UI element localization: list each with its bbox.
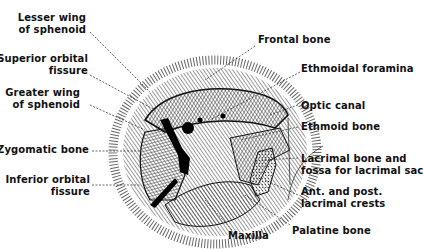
label-lacrimal-crests: Ant. and post. lacrimal crests	[301, 186, 385, 210]
label-line: Ethmoid bone	[301, 121, 380, 133]
label-zygomatic-bone: Zygomatic bone	[0, 144, 89, 156]
label-line: of sphenoid	[18, 24, 86, 36]
label-line: Greater wing	[5, 87, 80, 99]
label-line: Maxilla	[228, 230, 269, 242]
label-line: Inferior orbital	[5, 174, 90, 186]
label-line: Ant. and post.	[301, 186, 385, 198]
label-line: Palatine bone	[292, 225, 371, 237]
label-line: Ethmoidal foramina	[301, 63, 414, 75]
label-lacrimal-bone: Lacrimal bone and fossa for lacrimal sac	[301, 153, 423, 177]
ethmoidal-foramina-shape	[198, 118, 203, 123]
label-line: Zygomatic bone	[0, 144, 89, 156]
label-line: Optic canal	[301, 100, 365, 112]
label-ethmoidal-foramina: Ethmoidal foramina	[301, 63, 414, 75]
label-ethmoid-bone: Ethmoid bone	[301, 121, 380, 133]
label-line: Lesser wing	[18, 12, 86, 24]
label-greater-wing-of-sphenoid: Greater wing of sphenoid	[5, 87, 80, 111]
label-palatine-bone: Palatine bone	[292, 225, 371, 237]
label-inferior-orbital-fissure: Inferior orbital fissure	[5, 174, 90, 198]
label-lesser-wing-of-sphenoid: Lesser wing of sphenoid	[18, 12, 86, 36]
label-line: lacrimal crests	[301, 198, 385, 210]
label-maxilla: Maxilla	[228, 230, 269, 242]
label-line: Lacrimal bone and	[301, 153, 423, 165]
label-optic-canal: Optic canal	[301, 100, 365, 112]
label-line: fissure	[5, 186, 90, 198]
label-line: Superior orbital	[0, 53, 88, 65]
label-superior-orbital-fissure: Superior orbital fissure	[0, 53, 88, 77]
label-line: fossa for lacrimal sac	[301, 165, 423, 177]
label-line: of sphenoid	[5, 99, 80, 111]
optic-canal-shape	[182, 122, 194, 134]
label-frontal-bone: Frontal bone	[258, 34, 331, 46]
label-line: Frontal bone	[258, 34, 331, 46]
label-line: fissure	[0, 65, 88, 77]
